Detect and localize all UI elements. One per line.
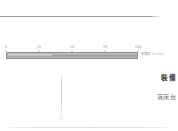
- gauge-bar: [6, 52, 138, 59]
- vertical-divider: [61, 76, 62, 118]
- top-horizontal-rule: [0, 16, 152, 17]
- gauge-scale: 0 25 50 75 100: [6, 45, 138, 63]
- bottom-artifact: [59, 116, 63, 120]
- top-horizontal-rule-fade: [152, 16, 162, 17]
- document-page: 0 25 50 75 100 照護度（0-100） 裝備 蒸床台: [0, 0, 178, 131]
- gauge-bar-highlight: [8, 54, 52, 56]
- section-heading: 裝備: [161, 74, 176, 83]
- gauge-caption: 照護度（0-100）: [141, 52, 166, 57]
- gauge-tick-axis: 0 25 50 75 100: [6, 45, 138, 52]
- bottom-horizontal-rule: [2, 127, 174, 128]
- section-subheading: 蒸床台: [157, 92, 176, 101]
